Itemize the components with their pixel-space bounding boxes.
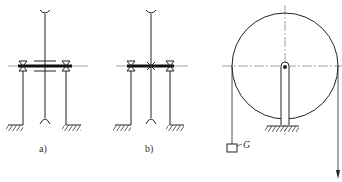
pulley-axle-icon <box>283 65 287 69</box>
ground-right-icon <box>62 125 81 131</box>
pulley-support <box>281 62 289 125</box>
top-fork-icon <box>40 10 50 13</box>
ground-left-icon <box>6 125 23 131</box>
panel-b-label: b) <box>145 143 153 155</box>
ground-right-icon <box>166 125 184 131</box>
ground-left-icon <box>113 125 131 131</box>
bottom-fork-icon <box>40 119 50 124</box>
panel-a-label: a) <box>39 143 47 155</box>
panel-c: G <box>222 5 342 179</box>
mechanics-figure: a) <box>0 0 342 182</box>
ground-icon <box>265 126 299 132</box>
panel-a: a) <box>6 10 88 155</box>
pull-arrow-icon <box>336 170 340 179</box>
weight-block <box>227 144 237 152</box>
weight-leader <box>237 144 242 146</box>
weight-label: G <box>243 139 250 150</box>
panel-b: b) <box>113 10 188 155</box>
bottom-fork-icon <box>146 119 156 124</box>
top-fork-icon <box>146 10 156 13</box>
